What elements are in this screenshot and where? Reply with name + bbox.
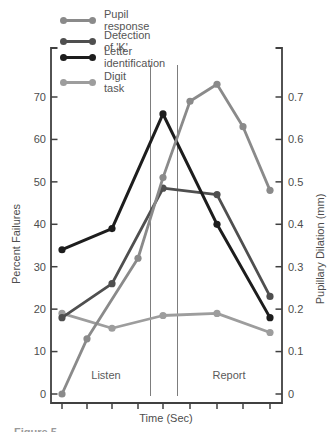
y-axis-tick-label-right: 0 bbox=[288, 388, 294, 400]
detection-of-k-line-swatch-icon bbox=[60, 38, 96, 45]
y-axis-tick-label-right: 0.3 bbox=[288, 261, 303, 273]
data-point-pupil-response bbox=[266, 187, 273, 194]
data-point-digit-task bbox=[159, 312, 166, 319]
data-point-digit-task bbox=[266, 329, 273, 336]
series-line-detection-of-k bbox=[62, 188, 270, 317]
data-point-pupil-response bbox=[239, 123, 246, 130]
series-line-letter-identification bbox=[62, 114, 270, 318]
y-axis-tick-label-left: 20 bbox=[34, 303, 46, 315]
phase-label-listen: Listen bbox=[82, 369, 130, 381]
y-axis-tick-label-right: 0.4 bbox=[288, 218, 303, 230]
y-axis-title-left: Percent Failures bbox=[10, 174, 22, 314]
y-axis-tick-label-right: 0.2 bbox=[288, 303, 303, 315]
data-point-letter-identification bbox=[159, 110, 166, 117]
data-point-detection-of-k bbox=[108, 280, 115, 287]
letter-identification-line-swatch-icon bbox=[60, 54, 96, 61]
x-axis-title: Time (Sec) bbox=[126, 412, 206, 424]
legend-label: Digit task bbox=[104, 70, 126, 94]
y-axis-tick-label-left: 0 bbox=[40, 388, 46, 400]
data-point-pupil-response bbox=[159, 174, 166, 181]
y-axis-tick-label-right: 0.7 bbox=[288, 91, 303, 103]
data-point-detection-of-k bbox=[213, 191, 220, 198]
line-chart-canvas: 01020304050607000.10.20.30.40.50.60.7 bbox=[0, 0, 336, 433]
legend-item-digit-task: Digit task bbox=[60, 70, 126, 94]
data-point-letter-identification bbox=[58, 246, 65, 253]
legend-item-letter-identification: Letter identification bbox=[60, 45, 165, 69]
y-axis-tick-label-left: 10 bbox=[34, 345, 46, 357]
data-point-letter-identification bbox=[213, 221, 220, 228]
axes-frame bbox=[51, 48, 282, 403]
chart-figure: 01020304050607000.10.20.30.40.50.60.7 Pu… bbox=[0, 0, 336, 433]
data-point-pupil-response bbox=[186, 98, 193, 105]
y-axis-tick-label-left: 40 bbox=[34, 218, 46, 230]
phase-label-report: Report bbox=[205, 369, 253, 381]
data-point-detection-of-k bbox=[58, 314, 65, 321]
data-point-letter-identification bbox=[108, 225, 115, 232]
data-point-detection-of-k bbox=[266, 293, 273, 300]
data-point-pupil-response bbox=[83, 335, 90, 342]
y-axis-title-right: Pupillary Dilation (mm) bbox=[314, 164, 326, 334]
data-point-letter-identification bbox=[266, 314, 273, 321]
y-axis-tick-label-left: 60 bbox=[34, 133, 46, 145]
y-axis-tick-label-right: 0.1 bbox=[288, 345, 303, 357]
data-point-pupil-response bbox=[134, 255, 141, 262]
data-point-digit-task bbox=[108, 325, 115, 332]
data-point-digit-task bbox=[213, 310, 220, 317]
legend-label: Letter identification bbox=[104, 45, 165, 69]
data-point-pupil-response bbox=[213, 81, 220, 88]
y-axis-tick-label-left: 50 bbox=[34, 176, 46, 188]
figure-caption-cutoff: Figure 5. bbox=[14, 426, 78, 432]
y-axis-tick-label-left: 70 bbox=[34, 91, 46, 103]
y-axis-tick-label-right: 0.5 bbox=[288, 176, 303, 188]
pupil-response-line-swatch-icon bbox=[60, 17, 96, 24]
data-point-pupil-response bbox=[58, 390, 65, 397]
y-axis-tick-label-right: 0.6 bbox=[288, 133, 303, 145]
digit-task-line-swatch-icon bbox=[60, 79, 96, 86]
y-axis-tick-label-left: 30 bbox=[34, 261, 46, 273]
